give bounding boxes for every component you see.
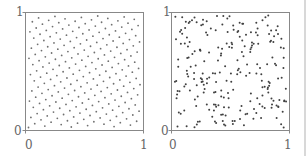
divider	[304, 0, 306, 156]
x-tick-0: 0	[169, 139, 177, 151]
random-scatter-panel: 1 0 0 1	[150, 0, 306, 156]
x-tick-1: 1	[284, 139, 292, 151]
y-tick-0: 0	[14, 125, 22, 137]
lattice-scatter-panel: 1 0 0 1	[0, 0, 150, 156]
lattice-scatter-plot	[0, 0, 150, 156]
y-tick-1: 1	[163, 6, 171, 18]
random-scatter-plot	[150, 0, 306, 156]
y-tick-0: 0	[161, 125, 169, 137]
y-tick-1: 1	[16, 6, 24, 18]
x-tick-0: 0	[25, 139, 33, 151]
x-tick-1: 1	[140, 139, 148, 151]
